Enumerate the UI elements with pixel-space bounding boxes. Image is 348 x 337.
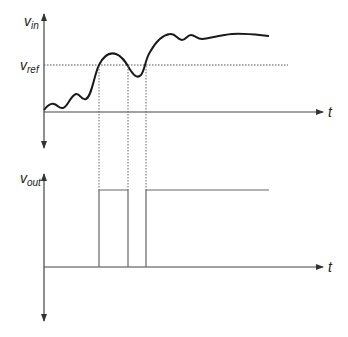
comparator-timing-diagram: vin vref t vout t	[0, 0, 348, 337]
time-label-bottom: t	[328, 259, 333, 275]
vout-label: vout	[20, 170, 42, 188]
vin-label: vin	[24, 13, 39, 31]
output-plot: vout t	[20, 170, 333, 321]
time-label-top: t	[328, 104, 333, 120]
input-plot: vin vref t	[20, 13, 333, 190]
vout-pulse-1	[99, 190, 128, 267]
vout-pulse-2	[146, 190, 269, 267]
vref-label: vref	[20, 57, 40, 75]
vin-signal-curve	[44, 34, 269, 110]
